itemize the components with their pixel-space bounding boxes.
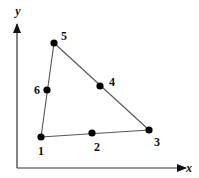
- x-axis-label: x: [185, 161, 192, 175]
- node-label-1: 1: [38, 144, 44, 158]
- node-3: [145, 126, 152, 133]
- node-label-3: 3: [154, 135, 160, 149]
- node-6: [43, 86, 50, 93]
- triangle-edges: [41, 43, 149, 137]
- node-2: [88, 129, 95, 136]
- triangle-nodes: [37, 39, 152, 140]
- node-label-5: 5: [61, 29, 67, 43]
- triangle-element-diagram: xy 123456: [0, 0, 199, 178]
- node-4: [96, 82, 103, 89]
- node-label-6: 6: [34, 83, 40, 97]
- node-1: [37, 133, 44, 140]
- node-label-2: 2: [94, 140, 100, 154]
- y-axis-label: y: [13, 4, 21, 18]
- node-label-4: 4: [109, 75, 115, 89]
- node-5: [50, 39, 57, 46]
